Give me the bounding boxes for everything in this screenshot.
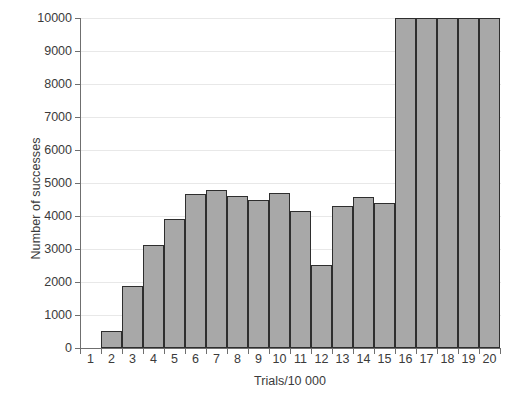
x-tick-label: 11	[290, 352, 311, 372]
x-tick-mark	[395, 349, 396, 354]
x-tick-label: 19	[458, 352, 479, 372]
x-tick-mark	[80, 349, 81, 354]
y-tick-label: 5000	[0, 176, 72, 190]
bar-slot	[207, 18, 228, 348]
y-tick-label: 1000	[0, 308, 72, 322]
bar	[353, 197, 374, 348]
x-tick-mark	[248, 349, 249, 354]
x-tick-label: 14	[353, 352, 374, 372]
x-tick-label: 6	[185, 352, 206, 372]
bar	[374, 203, 395, 348]
bar	[395, 18, 416, 348]
bar	[248, 200, 269, 348]
x-tick-mark	[416, 349, 417, 354]
y-tick-label: 6000	[0, 143, 72, 157]
bar-slot	[312, 18, 333, 348]
x-tick-label: 2	[101, 352, 122, 372]
bar-slot	[249, 18, 270, 348]
bar	[164, 219, 185, 348]
bar	[290, 211, 311, 348]
x-tick-mark	[164, 349, 165, 354]
x-tick-mark	[500, 349, 501, 354]
y-tick-mark	[75, 216, 80, 217]
x-tick-label: 10	[269, 352, 290, 372]
bar-slot	[186, 18, 207, 348]
bar	[185, 194, 206, 348]
x-tick-mark	[269, 349, 270, 354]
bar-slot	[165, 18, 186, 348]
bar-slot	[228, 18, 249, 348]
x-tick-mark	[101, 349, 102, 354]
y-tick-label: 3000	[0, 242, 72, 256]
bar-slot	[333, 18, 354, 348]
y-tick-label: 7000	[0, 110, 72, 124]
x-tick-mark	[290, 349, 291, 354]
x-tick-label: 4	[143, 352, 164, 372]
bar	[311, 265, 332, 348]
bar-slot	[480, 18, 501, 348]
bar	[479, 18, 500, 348]
bar-slot	[396, 18, 417, 348]
y-tick-mark	[75, 282, 80, 283]
bar-slot	[459, 18, 480, 348]
y-tick-mark	[75, 51, 80, 52]
bar	[206, 190, 227, 348]
y-tick-mark	[75, 315, 80, 316]
bar	[269, 193, 290, 348]
bar-slot	[417, 18, 438, 348]
x-tick-mark	[479, 349, 480, 354]
y-tick-mark	[75, 18, 80, 19]
y-tick-mark	[75, 117, 80, 118]
y-tick-label: 0	[0, 341, 72, 355]
x-tick-mark	[185, 349, 186, 354]
x-tick-label: 15	[374, 352, 395, 372]
y-tick-mark	[75, 249, 80, 250]
x-axis-label: Trials/10 000	[80, 374, 500, 388]
plot-area	[80, 18, 501, 349]
bar	[101, 331, 122, 348]
y-tick-mark	[75, 84, 80, 85]
bar-slot	[438, 18, 459, 348]
x-tick-label: 13	[332, 352, 353, 372]
y-tick-mark	[75, 183, 80, 184]
x-tick-mark	[143, 349, 144, 354]
x-tick-mark	[206, 349, 207, 354]
bar-series	[81, 18, 501, 348]
x-tick-mark	[311, 349, 312, 354]
bar-slot	[102, 18, 123, 348]
bar-slot	[144, 18, 165, 348]
y-tick-label: 9000	[0, 44, 72, 58]
y-tick-label: 2000	[0, 275, 72, 289]
bar	[458, 18, 479, 348]
x-tick-label: 16	[395, 352, 416, 372]
x-tick-mark	[458, 349, 459, 354]
bar-slot	[291, 18, 312, 348]
bar-slot	[270, 18, 291, 348]
x-tick-label: 17	[416, 352, 437, 372]
y-tick-mark	[75, 150, 80, 151]
bar-slot	[354, 18, 375, 348]
x-tick-mark	[374, 349, 375, 354]
x-tick-mark	[437, 349, 438, 354]
bar	[332, 206, 353, 348]
y-tick-label: 10000	[0, 11, 72, 25]
x-tick-label: 1	[80, 352, 101, 372]
bar-slot	[81, 18, 102, 348]
x-tick-mark	[353, 349, 354, 354]
x-tick-label: 7	[206, 352, 227, 372]
x-tick-mark	[332, 349, 333, 354]
x-axis-tick-labels: 1234567891011121314151617181920	[80, 352, 500, 372]
bar-chart-figure: Number of successes 01000200030004000500…	[0, 0, 513, 397]
x-tick-label: 5	[164, 352, 185, 372]
x-tick-label: 8	[227, 352, 248, 372]
bar	[227, 196, 248, 348]
x-tick-label: 18	[437, 352, 458, 372]
bar-slot	[375, 18, 396, 348]
x-tick-label: 12	[311, 352, 332, 372]
x-tick-label: 20	[479, 352, 500, 372]
x-tick-label: 9	[248, 352, 269, 372]
bar-slot	[123, 18, 144, 348]
y-tick-label: 8000	[0, 77, 72, 91]
bar	[437, 18, 458, 348]
y-tick-label: 4000	[0, 209, 72, 223]
